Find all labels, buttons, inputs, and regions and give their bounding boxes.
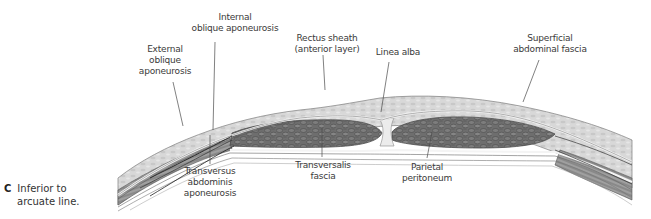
label-line: peritoneum (394, 173, 460, 184)
label-transversus-abdominis-aponeurosis: Transversus abdominis aponeurosis (180, 166, 240, 199)
label-line: Internal (180, 12, 290, 23)
label-superficial-abdominal-fascia: Superficial abdominal fascia (500, 33, 600, 55)
label-line: Transversus (180, 166, 240, 177)
leader-internal-oblique (213, 42, 215, 130)
label-line: (anterior layer) (282, 44, 372, 55)
label-line: Transversalis (290, 160, 356, 171)
figure-caption: CInferior to arcuate line. (4, 182, 79, 208)
label-line: abdominis (180, 177, 240, 188)
label-external-oblique-aponeurosis: External oblique aponeurosis (135, 44, 195, 77)
label-line: oblique aponeurosis (180, 23, 290, 34)
anatomy-figure: Internal oblique aponeurosis External ob… (0, 0, 651, 219)
label-line: abdominal fascia (500, 44, 600, 55)
label-line: Rectus sheath (282, 33, 372, 44)
panel-letter: C (4, 183, 11, 194)
label-line: oblique (135, 55, 195, 66)
label-line: fascia (290, 171, 356, 182)
label-internal-oblique-aponeurosis: Internal oblique aponeurosis (180, 12, 290, 34)
label-line: Linea alba (368, 47, 428, 58)
label-line: Parietal (394, 162, 460, 173)
caption-line-2: arcuate line. (4, 195, 79, 208)
caption-line-1: Inferior to (17, 183, 66, 194)
leader-external-oblique (173, 82, 183, 126)
label-line: External (135, 44, 195, 55)
label-transversalis-fascia: Transversalis fascia (290, 160, 356, 182)
leader-rectus-sheath (323, 55, 325, 90)
label-line: aponeurosis (135, 66, 195, 77)
label-rectus-sheath: Rectus sheath (anterior layer) (282, 33, 372, 55)
label-line: aponeurosis (180, 188, 240, 199)
label-line: Superficial (500, 33, 600, 44)
leader-superficial-fascia (523, 60, 539, 102)
label-parietal-peritoneum: Parietal peritoneum (394, 162, 460, 184)
label-linea-alba: Linea alba (368, 47, 428, 58)
